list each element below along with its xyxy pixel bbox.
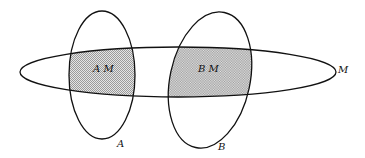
set-b-label: B	[218, 142, 225, 152]
set-m-label: M	[338, 65, 348, 75]
venn-svg	[0, 0, 365, 158]
region-bm-shade	[157, 4, 264, 156]
venn-diagram: A M B M M A B	[0, 0, 365, 158]
set-a-label: A	[117, 139, 124, 149]
region-am-label: A M	[93, 64, 114, 74]
region-bm-label: B M	[198, 64, 219, 74]
shaded-regions	[69, 4, 263, 156]
